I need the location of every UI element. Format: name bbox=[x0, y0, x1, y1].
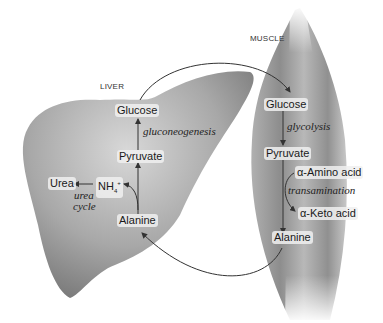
glycolysis-label: glycolysis bbox=[287, 120, 330, 133]
liver-pyruvate: Pyruvate bbox=[117, 150, 164, 163]
amino-acid-label: α-Amino acid bbox=[295, 166, 363, 179]
muscle-pyruvate: Pyruvate bbox=[264, 147, 311, 160]
muscle-glucose: Glucose bbox=[264, 98, 308, 111]
keto-acid-label: α-Keto acid bbox=[298, 207, 358, 220]
liver-glucose: Glucose bbox=[115, 104, 159, 117]
transamination-label: transamination bbox=[288, 184, 355, 197]
urea-cycle-label-2: cycle bbox=[73, 200, 96, 213]
liver-alanine: Alanine bbox=[117, 214, 158, 227]
muscle-shape bbox=[251, 5, 355, 323]
arrow-alanine-to-liver bbox=[142, 233, 282, 276]
gluconeogenesis-label: gluconeogenesis bbox=[143, 125, 216, 138]
liver-nh4: NH4+ bbox=[96, 177, 123, 198]
urea-label: Urea bbox=[48, 177, 76, 190]
muscle-label: MUSCLE bbox=[250, 32, 285, 45]
glucose-alanine-cycle-diagram: LIVER MUSCLE Glucose gluconeogenesis Pyr… bbox=[0, 0, 383, 323]
diagram-graphics bbox=[0, 0, 383, 323]
liver-label: LIVER bbox=[100, 80, 124, 93]
muscle-alanine: Alanine bbox=[272, 231, 313, 244]
